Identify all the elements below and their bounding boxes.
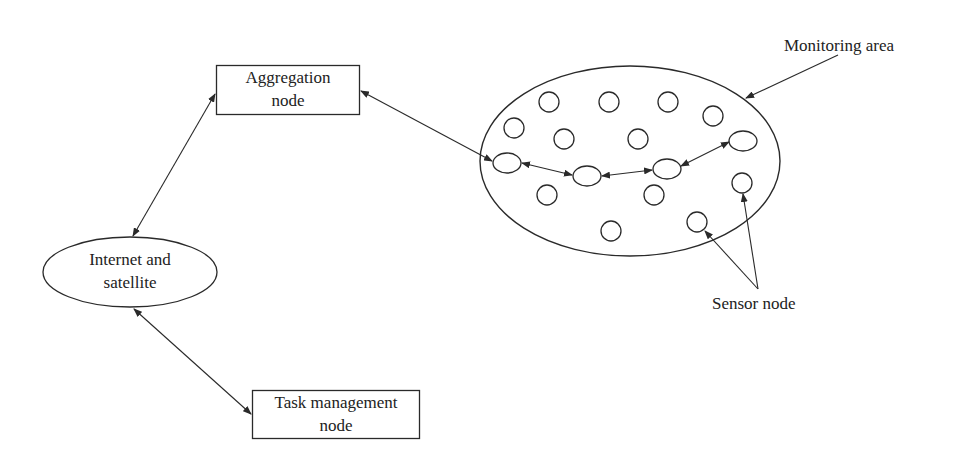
monitoring-area-label: Monitoring area (784, 34, 894, 57)
aggregation-node-label: Aggregation node (216, 66, 360, 112)
internet-satellite-line2: satellite (60, 271, 200, 294)
relay-node-ellipses (493, 131, 757, 186)
arrow-internet-task (134, 309, 251, 414)
task-management-line2: node (252, 414, 420, 437)
task-management-node-label: Task management node (252, 391, 420, 437)
network-diagram (0, 0, 955, 464)
aggregation-node-line2: node (216, 89, 360, 112)
arrow-monitoring-area-pointer (746, 55, 838, 98)
arrow-relay-1-2 (522, 163, 572, 175)
arrow-relay-3-4 (681, 142, 729, 166)
sensor-node-circles (504, 92, 752, 241)
monitoring-area-ellipse (480, 66, 780, 256)
arrow-internet-aggregation (133, 94, 215, 236)
aggregation-node-line1: Aggregation (216, 66, 360, 89)
internet-satellite-line1: Internet and (60, 248, 200, 271)
arrow-relay-2-3 (602, 170, 652, 176)
task-management-line1: Task management (252, 391, 420, 414)
sensor-node-label: Sensor node (712, 292, 796, 315)
internet-satellite-label: Internet and satellite (60, 248, 200, 294)
arrow-aggregation-monitoring (361, 91, 492, 161)
